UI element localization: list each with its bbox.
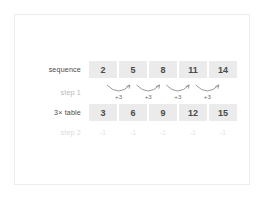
arc-label-step-1: +3: [145, 93, 153, 100]
arc-label-step-1: +3: [204, 93, 212, 100]
step-2-cell: -1: [209, 126, 237, 139]
row-step-1: step 1 +3 +3 +3: [15, 83, 251, 101]
sequence-cell: 2: [89, 61, 117, 78]
row-step-2: step 2 -1 -1 -1 -1 -1: [15, 126, 251, 139]
three-times-table-cells: 3 6 9 12 15: [89, 104, 237, 121]
arc-increment-icon: [137, 85, 160, 91]
row-label-step-1: step 1: [15, 88, 89, 97]
arc-label-step-1: +3: [174, 93, 182, 100]
arc-increment-icon: [196, 85, 219, 91]
table-cell: 9: [149, 104, 177, 121]
arrow-group: +3 +3 +3 +3: [89, 83, 237, 101]
step-2-cell: -1: [179, 126, 207, 139]
arc-increment-icon: [107, 85, 130, 91]
step-2-cell: -1: [89, 126, 117, 139]
table-cell: 15: [209, 104, 237, 121]
step-2-cell: -1: [119, 126, 147, 139]
step-2-cells: -1 -1 -1 -1 -1: [89, 126, 237, 139]
table-cell: 6: [119, 104, 147, 121]
row-three-times-table: 3× table 3 6 9 12 15: [15, 104, 251, 121]
table-cell: 3: [89, 104, 117, 121]
step-1-arrows: +3 +3 +3 +3: [89, 83, 237, 101]
row-sequence: sequence 2 5 8 11 14: [15, 61, 251, 78]
arc-label-step-1: +3: [115, 93, 123, 100]
diagram-canvas: sequence 2 5 8 11 14 step 1 +3: [0, 0, 266, 199]
arc-increment-icon: [166, 85, 189, 91]
sequence-grid: sequence 2 5 8 11 14 step 1 +3: [15, 15, 251, 186]
row-label-three-times-table: 3× table: [15, 108, 89, 117]
row-label-step-2: step 2: [15, 128, 89, 137]
sequence-cell: 11: [179, 61, 207, 78]
sequence-cell: 5: [119, 61, 147, 78]
sequence-cells: 2 5 8 11 14: [89, 61, 237, 78]
sequence-cell: 8: [149, 61, 177, 78]
table-cell: 12: [179, 104, 207, 121]
step-2-cell: -1: [149, 126, 177, 139]
sequence-cell: 14: [209, 61, 237, 78]
row-label-sequence: sequence: [15, 65, 89, 74]
diagram-card: sequence 2 5 8 11 14 step 1 +3: [14, 14, 250, 185]
